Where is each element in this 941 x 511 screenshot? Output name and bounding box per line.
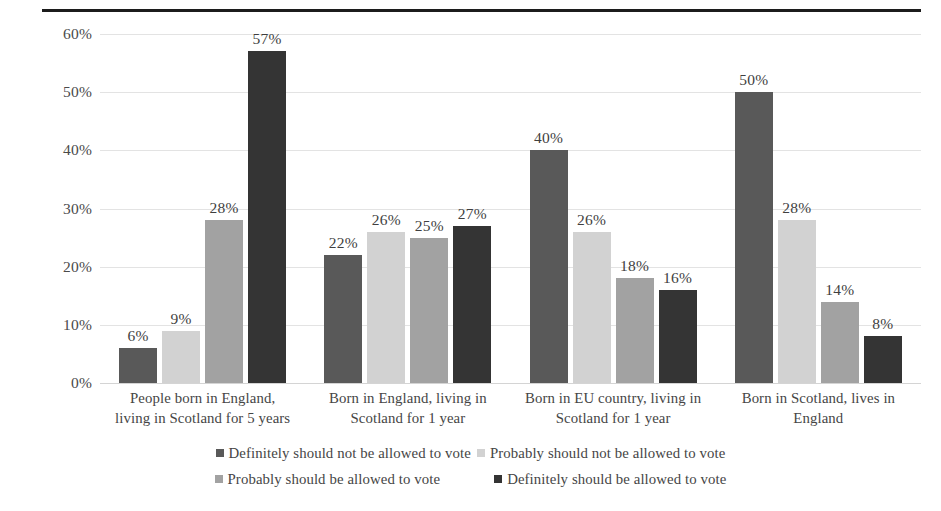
- y-axis-tick-label: 20%: [18, 258, 92, 276]
- category-label-line: England: [716, 408, 921, 428]
- bar-slot: 28%: [778, 34, 816, 383]
- legend-item[interactable]: Probably should not be allowed to vote: [477, 445, 726, 462]
- bar-slot: 14%: [821, 34, 859, 383]
- bar-slot: 57%: [248, 34, 286, 383]
- bar-value-label: 50%: [739, 71, 768, 89]
- legend-label: Probably should be allowed to vote: [228, 471, 441, 488]
- category-label: Born in Scotland, lives inEngland: [716, 388, 921, 428]
- bar-slot: 6%: [119, 34, 157, 383]
- bar-slot: 16%: [659, 34, 697, 383]
- bar[interactable]: [248, 51, 286, 383]
- bar-group: 22%26%25%27%: [305, 34, 510, 383]
- bar-group: 6%9%28%57%: [100, 34, 305, 383]
- bar[interactable]: [205, 220, 243, 383]
- y-axis-tick-label: 30%: [18, 200, 92, 218]
- category-label: Born in England, living inScotland for 1…: [305, 388, 510, 428]
- legend-row: Probably should be allowed to voteDefini…: [0, 466, 941, 492]
- y-axis-tick-label: 0%: [18, 374, 92, 392]
- category-label-line: Scotland for 1 year: [305, 408, 510, 428]
- bar[interactable]: [119, 348, 157, 383]
- bar-value-label: 16%: [663, 269, 692, 287]
- category-axis-labels: People born in England,living in Scotlan…: [100, 388, 921, 434]
- bar-chart-figure: 60%50%40%30%20%10%0% 6%9%28%57%22%26%25%…: [0, 0, 941, 511]
- bar-slot: 18%: [616, 34, 654, 383]
- y-axis-tick-label: 40%: [18, 141, 92, 159]
- bar[interactable]: [573, 232, 611, 383]
- bar[interactable]: [616, 278, 654, 383]
- category-label: Born in EU country, living inScotland fo…: [511, 388, 716, 428]
- category-label-line: Born in Scotland, lives in: [716, 388, 921, 408]
- bar-value-label: 40%: [534, 129, 563, 147]
- category-label-line: Scotland for 1 year: [511, 408, 716, 428]
- legend-label: Definitely should not be allowed to vote: [229, 445, 471, 462]
- bar[interactable]: [410, 238, 448, 383]
- bar[interactable]: [864, 336, 902, 383]
- gridline-0%: [100, 383, 921, 384]
- category-label-line: People born in England,: [100, 388, 305, 408]
- legend-label: Definitely should be allowed to vote: [507, 471, 726, 488]
- bar[interactable]: [659, 290, 697, 383]
- legend-row: Definitely should not be allowed to vote…: [0, 440, 941, 466]
- legend-swatch-icon: [216, 449, 224, 457]
- bar[interactable]: [453, 226, 491, 383]
- category-label-line: Born in EU country, living in: [511, 388, 716, 408]
- bar-slot: 26%: [573, 34, 611, 383]
- bar-value-label: 18%: [620, 257, 649, 275]
- bar-value-label: 8%: [872, 315, 893, 333]
- category-label-line: Born in England, living in: [305, 388, 510, 408]
- y-axis-tick-label: 50%: [18, 83, 92, 101]
- bar[interactable]: [367, 232, 405, 383]
- legend-item[interactable]: Definitely should be allowed to vote: [494, 471, 726, 488]
- bar[interactable]: [324, 255, 362, 383]
- bar-value-label: 25%: [415, 217, 444, 235]
- bar-value-label: 9%: [171, 310, 192, 328]
- y-axis: 60%50%40%30%20%10%0%: [8, 34, 92, 383]
- bar-slot: 27%: [453, 34, 491, 383]
- legend-swatch-icon: [494, 475, 502, 483]
- category-label: People born in England,living in Scotlan…: [100, 388, 305, 428]
- bar-slot: 50%: [735, 34, 773, 383]
- bar-value-label: 28%: [210, 199, 239, 217]
- bar-value-label: 28%: [782, 199, 811, 217]
- bar-slot: 25%: [410, 34, 448, 383]
- bar-value-label: 14%: [825, 281, 854, 299]
- chart-legend: Definitely should not be allowed to vote…: [0, 440, 941, 500]
- bar-slot: 8%: [864, 34, 902, 383]
- bar-value-label: 22%: [329, 234, 358, 252]
- category-label-line: living in Scotland for 5 years: [100, 408, 305, 428]
- bar-group: 50%28%14%8%: [716, 34, 921, 383]
- bar-slot: 40%: [530, 34, 568, 383]
- bar-value-label: 26%: [372, 211, 401, 229]
- bar[interactable]: [778, 220, 816, 383]
- bar-value-label: 27%: [458, 205, 487, 223]
- bar-group: 40%26%18%16%: [511, 34, 716, 383]
- legend-item[interactable]: Probably should be allowed to vote: [215, 471, 441, 488]
- y-axis-tick-label: 10%: [18, 316, 92, 334]
- bar-value-label: 26%: [577, 211, 606, 229]
- top-divider-rule: [42, 9, 921, 12]
- legend-label: Probably should not be allowed to vote: [490, 445, 726, 462]
- legend-item[interactable]: Definitely should not be allowed to vote: [216, 445, 471, 462]
- bar-slot: 22%: [324, 34, 362, 383]
- legend-swatch-icon: [477, 449, 485, 457]
- legend-swatch-icon: [215, 475, 223, 483]
- bar-slot: 28%: [205, 34, 243, 383]
- plot-area: 6%9%28%57%22%26%25%27%40%26%18%16%50%28%…: [100, 34, 921, 383]
- bar[interactable]: [735, 92, 773, 383]
- bar-value-label: 6%: [128, 327, 149, 345]
- y-axis-tick-label: 60%: [18, 25, 92, 43]
- bar-slot: 26%: [367, 34, 405, 383]
- bar[interactable]: [821, 302, 859, 383]
- bar[interactable]: [530, 150, 568, 383]
- bar-slot: 9%: [162, 34, 200, 383]
- bar[interactable]: [162, 331, 200, 383]
- bar-value-label: 57%: [253, 30, 282, 48]
